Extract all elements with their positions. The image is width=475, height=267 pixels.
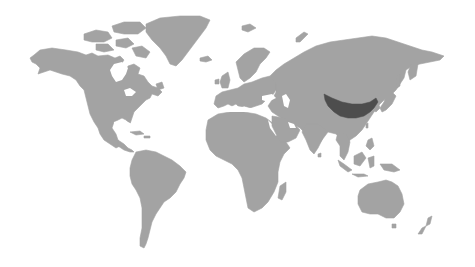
baffin-island[interactable] <box>132 46 150 58</box>
arctic-island-4[interactable] <box>116 38 134 48</box>
java[interactable] <box>352 174 368 177</box>
region-tasmania[interactable] <box>392 224 396 228</box>
region-indonesia[interactable] <box>338 152 400 177</box>
taiwan[interactable] <box>366 123 368 128</box>
region-australia[interactable] <box>358 180 404 218</box>
sumatra[interactable] <box>338 160 352 172</box>
borneo[interactable] <box>354 152 366 166</box>
world-map-svg <box>0 0 475 267</box>
ireland[interactable] <box>215 79 219 84</box>
arctic-island-1[interactable] <box>84 30 112 42</box>
sulawesi[interactable] <box>368 156 374 168</box>
new-guinea[interactable] <box>380 164 400 172</box>
hispaniola[interactable] <box>144 136 150 138</box>
world-map <box>0 0 475 267</box>
novaya-zemlya[interactable] <box>296 32 308 42</box>
region-new-zealand-north[interactable] <box>426 216 432 226</box>
scandinavia[interactable] <box>236 48 270 82</box>
region-iceland[interactable] <box>200 56 212 62</box>
svalbard[interactable] <box>242 24 256 32</box>
great-britain[interactable] <box>220 72 230 88</box>
region-north-america[interactable] <box>30 22 164 152</box>
philippines[interactable] <box>366 138 374 150</box>
region-madagascar[interactable] <box>278 182 286 200</box>
region-south-america[interactable] <box>130 150 186 248</box>
sri-lanka[interactable] <box>318 153 321 157</box>
india[interactable] <box>302 124 326 154</box>
region-asia[interactable] <box>262 32 444 160</box>
sakhalin[interactable] <box>396 74 400 88</box>
cuba[interactable] <box>130 131 144 135</box>
region-new-zealand-south[interactable] <box>418 226 426 234</box>
central-america[interactable] <box>118 140 134 152</box>
arctic-island-3[interactable] <box>96 44 114 52</box>
mediterranean-sea <box>222 106 266 112</box>
arctic-island-2[interactable] <box>112 22 146 34</box>
